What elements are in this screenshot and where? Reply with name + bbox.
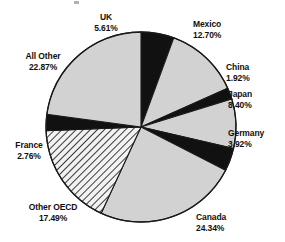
slice-label-other-oecd-percent: 17.49% xyxy=(16,213,90,224)
pie-chart: UK 5.61% Mexico 12.70% China 1.92% Japan… xyxy=(0,0,285,242)
slice-label-canada-name: Canada xyxy=(196,212,256,223)
slice-label-other-oecd-name: Other OECD xyxy=(16,202,90,213)
slice-label-france: France 2.76% xyxy=(2,140,56,161)
slice-label-france-name: France xyxy=(2,140,56,151)
slice-label-other-oecd: Other OECD 17.49% xyxy=(16,202,90,223)
slice-label-japan-percent: 8.40% xyxy=(228,100,282,111)
slice-label-china-name: China xyxy=(226,62,282,73)
slice-label-uk: UK 5.61% xyxy=(78,12,134,33)
slice-label-uk-percent: 5.61% xyxy=(78,23,134,34)
slice-label-mexico-percent: 12.70% xyxy=(193,30,263,41)
slice-label-all-other: All Other 22.87% xyxy=(12,51,74,72)
slice-label-japan-name: Japan xyxy=(228,89,282,100)
slice-label-germany-percent: 3.92% xyxy=(228,139,285,150)
pie-slices xyxy=(46,32,236,222)
slice-label-mexico: Mexico 12.70% xyxy=(193,19,263,40)
slice-label-mexico-name: Mexico xyxy=(193,19,263,30)
pie-slice-all-other xyxy=(47,32,141,127)
slice-label-germany-name: Germany xyxy=(228,128,285,139)
slice-label-china-percent: 1.92% xyxy=(226,73,282,84)
slice-label-germany: Germany 3.92% xyxy=(228,128,285,149)
slice-label-china: China 1.92% xyxy=(226,62,282,83)
slice-label-uk-name: UK xyxy=(78,12,134,23)
slice-label-canada: Canada 24.34% xyxy=(196,212,256,233)
slice-label-all-other-percent: 22.87% xyxy=(12,62,74,73)
slice-label-japan: Japan 8.40% xyxy=(228,89,282,110)
slice-label-france-percent: 2.76% xyxy=(2,151,56,162)
slice-label-canada-percent: 24.34% xyxy=(196,223,256,234)
slice-label-all-other-name: All Other xyxy=(12,51,74,62)
